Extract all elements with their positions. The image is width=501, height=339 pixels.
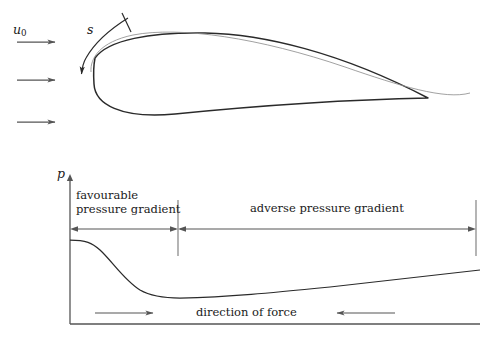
favourable-gradient-label: favourable pressure gradient [76, 189, 180, 216]
pressure-axis-label: p [57, 167, 65, 182]
adverse-gradient-label: adverse pressure gradient [250, 202, 404, 216]
direction-of-force-label: direction of force [196, 306, 297, 320]
boundary-layer-line [91, 32, 470, 95]
favourable-span-arrowhead-right [170, 226, 178, 231]
freestream-velocity-label: u0 [13, 23, 27, 39]
diagram-svg [0, 0, 501, 339]
freestream-velocity-symbol: u [13, 22, 21, 37]
region-span-arrows [70, 226, 476, 231]
freestream-velocity-subscript: 0 [21, 28, 27, 38]
favourable-span-arrowhead-left [70, 226, 78, 231]
favourable-gradient-label-line1: favourable [76, 189, 180, 203]
figure-page: u0 s p favourable pressure gradient adve… [0, 0, 501, 339]
y-axis-arrowhead [67, 174, 73, 181]
surface-coordinate-label: s [87, 23, 93, 38]
favourable-gradient-label-line2: pressure gradient [76, 203, 180, 217]
pressure-curve [70, 240, 480, 298]
airfoil-body [94, 33, 428, 115]
surface-coordinate-tick [122, 13, 131, 32]
adverse-span-arrowhead-left [178, 226, 186, 231]
adverse-span-arrowhead-right [468, 226, 476, 231]
freestream-flow-arrows [17, 42, 55, 122]
